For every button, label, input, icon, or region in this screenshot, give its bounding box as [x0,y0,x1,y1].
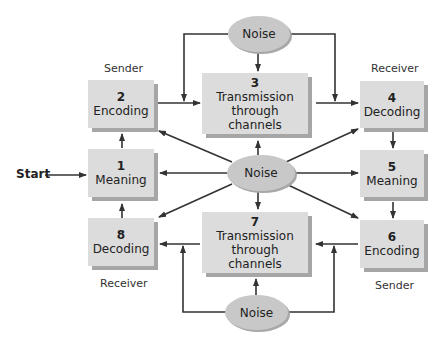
start-label: Start [16,167,50,181]
sender-label-bottom: Sender [375,279,414,292]
noise-label: Noise [242,27,275,41]
step-number: 3 [251,76,259,90]
noise-ellipse-bottom: Noise [225,295,288,330]
step-number: 6 [388,230,396,244]
noise-label: Noise [244,166,277,180]
step-3-transmission-box: 3 Transmission through channels [202,73,308,134]
step-number: 1 [117,159,125,173]
communication-process-diagram: Start Sender Receiver Receiver Sender 2 … [0,0,447,344]
step-number: 2 [117,90,125,104]
noise-ellipse-center: Noise [227,155,295,191]
noise-ellipse-top: Noise [228,16,290,52]
step-number: 8 [117,228,125,242]
sender-label-top: Sender [104,62,143,75]
step-label: Decoding [364,105,421,119]
step-number: 4 [388,91,396,105]
step-label: Decoding [93,242,150,256]
step-label: Transmission through channels [210,229,300,271]
receiver-label-bottom: Receiver [100,277,148,290]
step-number: 5 [388,160,396,174]
receiver-label-top: Receiver [371,62,419,75]
step-6-encoding-box: 6 Encoding [360,220,424,268]
step-4-decoding-box: 4 Decoding [360,81,424,128]
step-number: 7 [251,215,259,229]
step-label: Transmission through channels [210,90,300,132]
step-label: Meaning [95,173,146,187]
step-7-transmission-box: 7 Transmission through channels [202,212,308,273]
step-label: Encoding [93,104,148,118]
noise-label: Noise [240,306,273,320]
step-2-encoding-box: 2 Encoding [88,80,154,128]
step-label: Meaning [366,174,417,188]
step-8-decoding-box: 8 Decoding [88,218,154,266]
step-1-meaning-box: 1 Meaning [88,149,154,197]
step-label: Encoding [364,244,419,258]
step-5-meaning-box: 5 Meaning [360,150,424,197]
